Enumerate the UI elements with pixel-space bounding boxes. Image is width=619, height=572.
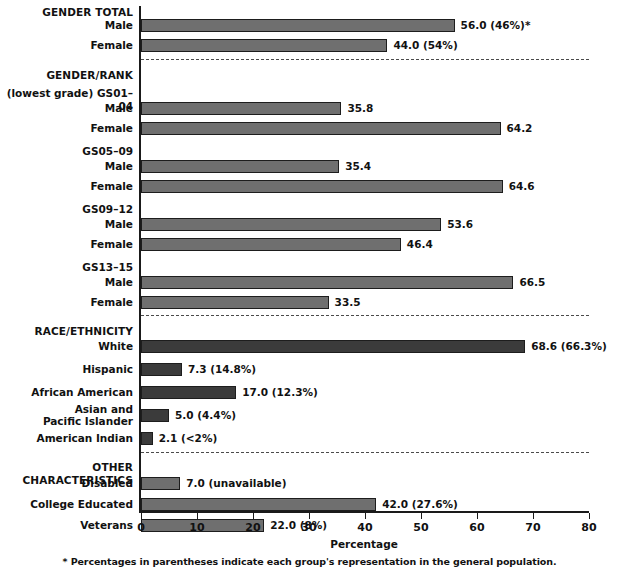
x-tick-mark — [477, 513, 478, 519]
x-tick-label: 60 — [457, 521, 497, 534]
x-axis-title: Percentage — [139, 538, 589, 550]
chart-footnote: * Percentages in parentheses indicate ea… — [0, 556, 619, 567]
bar-category-label: White — [0, 340, 133, 353]
x-tick-mark — [197, 513, 198, 519]
section-heading: GENDER TOTAL — [0, 6, 133, 19]
subgroup-heading: GS05–09 — [0, 145, 133, 158]
bar-category-label: Female — [0, 180, 133, 193]
bar — [141, 498, 376, 511]
x-tick-label: 0 — [121, 521, 161, 534]
x-tick-mark — [421, 513, 422, 519]
x-tick-label: 40 — [345, 521, 385, 534]
x-tick-mark — [141, 513, 142, 519]
bar — [141, 122, 501, 135]
bar-value-label: 64.6 — [509, 180, 535, 193]
x-tick-label: 50 — [401, 521, 441, 534]
bar-category-label: African American — [0, 386, 133, 399]
bar-category-label: Male — [0, 160, 133, 173]
bar-category-label: Female — [0, 238, 133, 251]
x-tick-label: 20 — [233, 521, 273, 534]
bar-value-label: 42.0 (27.6%) — [382, 498, 458, 511]
bar-value-label: 5.0 (4.4%) — [175, 409, 236, 422]
bar — [141, 409, 169, 422]
bar — [141, 386, 236, 399]
bar — [141, 363, 182, 376]
bar — [141, 102, 341, 115]
bar-category-label: Asian and Pacific Islander — [0, 404, 133, 427]
bar-value-label: 35.4 — [345, 160, 371, 173]
subgroup-heading: GS13–15 — [0, 261, 133, 274]
bar-value-label: 66.5 — [519, 276, 545, 289]
bar-category-label: Veterans — [0, 519, 133, 532]
section-divider — [141, 315, 589, 316]
bar-value-label: 44.0 (54%) — [393, 39, 457, 52]
x-tick-mark — [309, 513, 310, 519]
bar — [141, 160, 339, 173]
bar-category-label: Female — [0, 39, 133, 52]
bar-category-label: Hispanic — [0, 363, 133, 376]
x-tick-label: 30 — [289, 521, 329, 534]
bar-value-label: 2.1 (<2%) — [159, 432, 217, 445]
bar-value-label: 7.0 (unavailable) — [186, 477, 286, 490]
bar — [141, 296, 329, 309]
x-tick-label: 10 — [177, 521, 217, 534]
bar — [141, 477, 180, 490]
bar-value-label: 68.6 (66.3%) — [531, 340, 607, 353]
bar — [141, 218, 441, 231]
bar — [141, 340, 525, 353]
bar-value-label: 56.0 (46%)* — [461, 19, 531, 32]
bar — [141, 39, 387, 52]
bar-category-label: Female — [0, 296, 133, 309]
subgroup-heading: GS09–12 — [0, 203, 133, 216]
bar-category-label: Male — [0, 19, 133, 32]
x-tick-mark — [589, 513, 590, 519]
bar-category-label: Disabled — [0, 477, 133, 490]
bar-value-label: 17.0 (12.3%) — [242, 386, 318, 399]
bar-category-label: American Indian — [0, 432, 133, 445]
bar — [141, 180, 503, 193]
bar-category-label: Female — [0, 122, 133, 135]
bar — [141, 432, 153, 445]
bar-value-label: 7.3 (14.8%) — [188, 363, 256, 376]
bar — [141, 238, 401, 251]
bar-category-label: Male — [0, 276, 133, 289]
bar-chart: GENDER TOTALMale56.0 (46%)*Female44.0 (5… — [0, 0, 619, 572]
section-heading: GENDER/RANK — [0, 69, 133, 82]
bar-category-label: Male — [0, 218, 133, 231]
section-divider — [141, 59, 589, 60]
bar-value-label: 53.6 — [447, 218, 473, 231]
bar-category-label: Male — [0, 102, 133, 115]
bar — [141, 276, 513, 289]
x-tick-label: 80 — [569, 521, 609, 534]
bar — [141, 19, 455, 32]
section-heading: RACE/ETHNICITY — [0, 325, 133, 338]
plot-area: GENDER TOTALMale56.0 (46%)*Female44.0 (5… — [0, 0, 619, 512]
bar-value-label: 64.2 — [507, 122, 533, 135]
x-tick-mark — [365, 513, 366, 519]
bar-value-label: 35.8 — [347, 102, 373, 115]
bar-value-label: 46.4 — [407, 238, 433, 251]
bar-category-label: College Educated — [0, 498, 133, 511]
section-divider — [141, 452, 589, 453]
x-tick-mark — [533, 513, 534, 519]
bar-value-label: 33.5 — [335, 296, 361, 309]
x-tick-label: 70 — [513, 521, 553, 534]
x-tick-mark — [253, 513, 254, 519]
